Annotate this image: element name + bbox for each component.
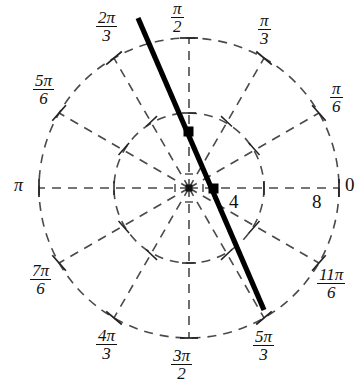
- data-point-on-pi-2-axis: [184, 127, 194, 137]
- tick-30: [312, 105, 326, 121]
- angle-label-3pi-2: 3π 2: [171, 347, 192, 382]
- angle-label-11pi-6-den: 6: [317, 284, 345, 301]
- angle-label-pi-3: π 3: [258, 12, 271, 47]
- angle-label-5pi-3-den: 3: [253, 346, 274, 363]
- angle-label-5pi-6: 5π 6: [33, 72, 54, 107]
- angle-label-2pi-3-den: 3: [96, 27, 117, 44]
- angle-label-pi-2-num: π: [171, 0, 184, 18]
- spoke-300: [189, 188, 264, 318]
- angle-label-4pi-3-num: 4π: [96, 327, 117, 345]
- angle-label-pi-2-den: 2: [171, 18, 184, 35]
- radial-label-8: 8: [312, 192, 322, 211]
- angle-label-pi-3-den: 3: [258, 30, 271, 47]
- tick-210: [52, 255, 66, 271]
- angle-label-3pi-2-num: 3π: [171, 347, 192, 365]
- angle-label-pi-2: π 2: [171, 0, 184, 35]
- tick-150: [52, 105, 66, 121]
- angle-label-11pi-6-num: 11π: [317, 266, 345, 284]
- angle-label-11pi-6: 11π 6: [317, 266, 345, 301]
- angle-label-4pi-3: 4π 3: [96, 327, 117, 362]
- angle-label-pi: π: [14, 176, 23, 194]
- data-point-on-polar-axis: [209, 184, 219, 194]
- polar-grid-svg: [0, 0, 364, 391]
- angle-label-pi-6: π 6: [330, 80, 343, 115]
- angle-label-5pi-6-num: 5π: [33, 72, 54, 90]
- spoke-240: [114, 188, 189, 318]
- angle-label-2pi-3: 2π 3: [96, 9, 117, 44]
- radial-label-4: 4: [229, 192, 239, 211]
- tick-120: [106, 52, 122, 65]
- angle-label-7pi-6-den: 6: [30, 280, 51, 297]
- angle-label-5pi-6-den: 6: [33, 90, 54, 107]
- angle-label-0: 0: [345, 175, 355, 194]
- angle-label-5pi-3-num: 5π: [253, 328, 274, 346]
- angle-label-pi-6-num: π: [330, 80, 343, 98]
- plotted-line: [138, 18, 264, 310]
- angle-label-pi-6-den: 6: [330, 98, 343, 115]
- angle-label-5pi-3: 5π 3: [253, 328, 274, 363]
- angle-label-pi-3-num: π: [258, 12, 271, 30]
- angle-label-7pi-6: 7π 6: [30, 262, 51, 297]
- origin-marker: [186, 185, 193, 192]
- spoke-120: [114, 58, 189, 188]
- angle-label-7pi-6-num: 7π: [30, 262, 51, 280]
- tick-60: [256, 52, 272, 65]
- angle-label-4pi-3-den: 3: [96, 345, 117, 362]
- tick-300: [256, 311, 272, 324]
- angle-label-2pi-3-num: 2π: [96, 9, 117, 27]
- angle-label-3pi-2-den: 2: [171, 365, 192, 382]
- tick-240: [106, 311, 122, 324]
- polar-chart: π 2 2π 3 π 3 5π 6 π 6 π 0 7π 6: [0, 0, 364, 391]
